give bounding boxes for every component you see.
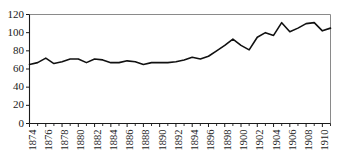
- x-tick-label: 1884: [108, 129, 119, 151]
- x-tick-label: 1910: [319, 130, 330, 151]
- x-tick-label: 1900: [238, 130, 249, 151]
- x-tick-label: 1880: [75, 130, 86, 151]
- x-tick-label: 1886: [124, 130, 135, 151]
- y-tick-label: 0: [19, 117, 25, 129]
- series-line-series-1: [30, 23, 331, 65]
- x-tick-label: 1882: [92, 130, 103, 151]
- y-tick-label: 80: [13, 44, 25, 56]
- x-tick-label: 1878: [59, 130, 70, 151]
- y-tick-label: 20: [13, 98, 25, 110]
- x-tick-label: 1876: [43, 130, 54, 151]
- x-tick-label: 1908: [303, 130, 314, 151]
- y-tick-label: 60: [13, 62, 25, 74]
- x-tick-label: 1892: [173, 130, 184, 151]
- x-tick-label: 1902: [254, 130, 265, 151]
- plot-frame: [30, 15, 331, 124]
- line-chart: 0204060801001201874187618781880188218841…: [0, 0, 342, 165]
- x-tick-label: 1906: [287, 130, 298, 151]
- chart-canvas: 0204060801001201874187618781880188218841…: [0, 0, 342, 165]
- x-tick-label: 1888: [140, 130, 151, 151]
- y-tick-label: 40: [13, 80, 25, 92]
- x-tick-label: 1890: [157, 130, 168, 151]
- x-tick-label: 1894: [189, 129, 200, 151]
- y-tick-label: 120: [8, 8, 25, 20]
- x-tick-label: 1904: [271, 129, 282, 151]
- x-tick-label: 1874: [27, 129, 38, 151]
- x-tick-label: 1898: [222, 130, 233, 151]
- x-tick-label: 1896: [205, 130, 216, 151]
- y-tick-label: 100: [8, 26, 25, 38]
